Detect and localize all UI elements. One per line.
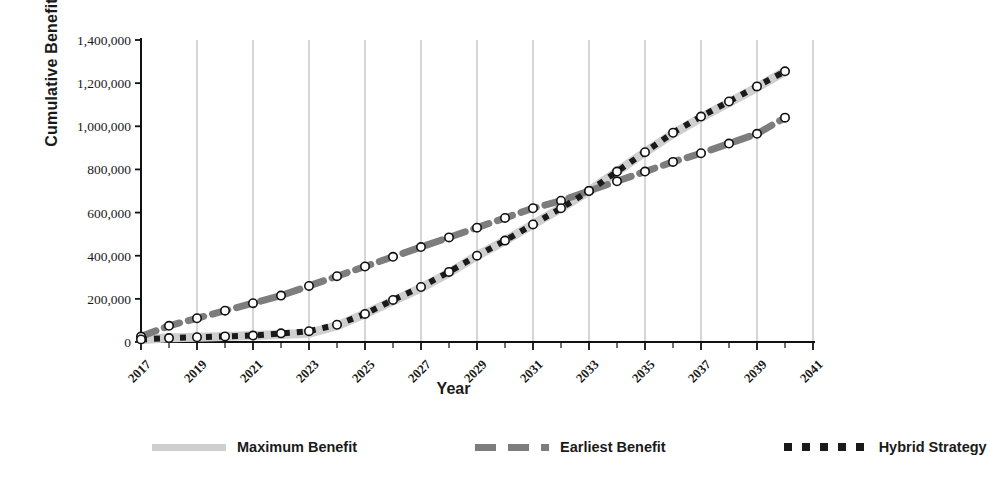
data-point-marker [249,299,257,307]
data-point-marker [585,187,593,195]
y-axis-tick-label: 1,200,000 [77,76,131,91]
data-point-marker [165,334,173,342]
data-point-marker [333,272,341,280]
data-point-marker [641,148,649,156]
data-point-marker [165,322,173,330]
data-point-marker [501,236,509,244]
x-axis-tick-label: 2027 [405,356,434,385]
y-axis-tick-label: 1,400,000 [77,33,131,48]
x-axis-tick-label: 2041 [797,357,826,386]
data-point-marker [613,177,621,185]
data-point-marker [193,333,201,341]
x-axis-tick-label: 2037 [685,356,714,385]
legend-item-earliest-benefit[interactable]: Earliest Benefit [475,439,666,455]
data-point-marker [277,291,285,299]
data-point-marker [445,268,453,276]
dashed-line-swatch [475,444,549,451]
legend-label-earliest-benefit: Earliest Benefit [560,439,666,455]
data-point-marker [501,214,509,222]
series-line-earliest-benefit [141,118,785,337]
data-point-marker [529,220,537,228]
legend-item-hybrid-strategy[interactable]: Hybrid Strategy [784,439,987,455]
y-axis-tick-label: 600,000 [87,206,131,221]
data-point-marker [781,67,789,75]
x-axis-tick-label: 2033 [573,356,602,385]
data-point-marker [277,329,285,337]
series-line-maximum-benefit [141,71,785,340]
data-point-marker [417,243,425,251]
data-point-marker [529,204,537,212]
solid-line-swatch [152,444,226,451]
chart-legend: Maximum Benefit Earliest Benefit Hybrid … [0,432,859,462]
data-point-marker [445,233,453,241]
y-axis-tick-label: 800,000 [87,162,131,177]
data-point-marker [725,97,733,105]
series-line-hybrid-strategy [141,71,785,339]
data-point-marker [669,158,677,166]
y-axis-tick-label: 200,000 [87,292,131,307]
x-axis-tick-label: 2039 [741,356,770,385]
x-axis-tick-label: 2021 [237,357,266,386]
x-axis-tick-label: 2025 [349,356,378,385]
data-point-marker [221,307,229,315]
x-axis-tick-label: 2031 [517,357,546,386]
data-point-marker [249,331,257,339]
data-point-marker [473,223,481,231]
dotted-line-swatch [784,443,868,451]
data-point-marker [193,314,201,322]
data-point-marker [221,332,229,340]
data-point-marker [473,252,481,260]
data-point-marker [305,282,313,290]
y-axis-tick-label: 0 [124,335,131,350]
y-axis-tick-label: 1,000,000 [77,119,131,134]
data-point-marker [781,113,789,121]
x-axis-tick-label: 2029 [461,356,490,385]
data-point-marker [361,310,369,318]
x-axis-tick-label: 2023 [293,356,322,385]
data-point-marker [557,204,565,212]
data-point-marker [753,130,761,138]
data-point-marker [697,149,705,157]
data-point-marker [389,253,397,261]
data-point-marker [725,139,733,147]
y-axis-tick-label: 400,000 [87,249,131,264]
x-axis-tick-label: 2019 [181,356,210,385]
data-point-marker [417,283,425,291]
x-axis-tick-label: 2035 [629,356,658,385]
legend-item-maximum-benefit[interactable]: Maximum Benefit [152,439,357,455]
data-point-marker [333,321,341,329]
data-point-marker [641,167,649,175]
x-axis-tick-label: 2017 [125,356,154,385]
data-point-marker [361,262,369,270]
data-point-marker [305,327,313,335]
data-point-marker [753,82,761,90]
data-point-marker [137,335,145,343]
data-point-marker [389,296,397,304]
data-point-marker [697,112,705,120]
legend-label-hybrid-strategy: Hybrid Strategy [879,439,987,455]
data-point-marker [613,167,621,175]
legend-label-maximum-benefit: Maximum Benefit [237,439,357,455]
data-point-marker [669,129,677,137]
